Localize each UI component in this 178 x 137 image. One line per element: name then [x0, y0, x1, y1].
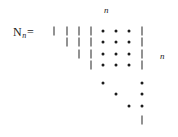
dot-icon [115, 93, 118, 96]
matrix-cell-dot-r4-c5 [102, 64, 105, 67]
dot-icon [128, 105, 131, 108]
matrix-cell-dot-r5-c5 [102, 82, 105, 85]
matrix-cell-bar-r2-c4 [91, 38, 92, 47]
matrix-label: Nn= [13, 26, 34, 40]
dot-icon [102, 53, 105, 56]
vertical-bar-icon [142, 27, 143, 36]
matrix-cell-bar-r1-c1 [54, 27, 55, 36]
vertical-bar-icon [91, 38, 92, 47]
vertical-bar-icon [142, 50, 143, 59]
vertical-bar-icon [91, 61, 92, 70]
matrix-cell-dot-r1-c7 [128, 30, 131, 33]
dimension-label-top: n [104, 6, 109, 15]
matrix-cell-bar-r8-c8 [142, 116, 143, 125]
matrix-cell-bar-r3-c8 [142, 50, 143, 59]
matrix-cell-dot-r3-c7 [128, 53, 131, 56]
matrix-cell-dot-r4-c6 [115, 64, 118, 67]
matrix-cell-bar-r2-c8 [142, 38, 143, 47]
dot-icon [128, 30, 131, 33]
dot-icon [141, 105, 144, 108]
dot-icon [115, 30, 118, 33]
matrix-cell-dot-r3-c6 [115, 53, 118, 56]
dot-icon [141, 93, 144, 96]
matrix-figure: Nn= n n [0, 0, 178, 137]
dot-icon [128, 53, 131, 56]
matrix-cell-bar-r4-c8 [142, 61, 143, 70]
vertical-bar-icon [79, 50, 80, 59]
dot-icon [102, 30, 105, 33]
vertical-bar-icon [54, 27, 55, 36]
vertical-bar-icon [91, 27, 92, 36]
matrix-cell-dot-r1-c6 [115, 30, 118, 33]
vertical-bar-icon [67, 27, 68, 36]
matrix-cell-dot-r5-c8 [141, 82, 144, 85]
matrix-variable: N [13, 25, 22, 39]
dot-icon [115, 41, 118, 44]
vertical-bar-icon [79, 38, 80, 47]
matrix-cell-dot-r2-c7 [128, 41, 131, 44]
vertical-bar-icon [142, 116, 143, 125]
vertical-bar-icon [142, 61, 143, 70]
matrix-cell-dot-r4-c7 [128, 64, 131, 67]
vertical-bar-icon [67, 38, 68, 47]
dot-icon [128, 41, 131, 44]
matrix-cell-bar-r1-c2 [67, 27, 68, 36]
matrix-cell-dot-r1-c5 [102, 30, 105, 33]
matrix-cell-bar-r2-c2 [67, 38, 68, 47]
vertical-bar-icon [79, 27, 80, 36]
matrix-cell-dot-r7-c8 [141, 105, 144, 108]
vertical-bar-icon [91, 50, 92, 59]
matrix-cell-dot-r6-c6 [115, 93, 118, 96]
matrix-cell-bar-r2-c3 [79, 38, 80, 47]
dot-icon [102, 64, 105, 67]
dot-icon [115, 64, 118, 67]
matrix-cell-dot-r2-c5 [102, 41, 105, 44]
dot-icon [102, 41, 105, 44]
dot-icon [102, 82, 105, 85]
matrix-cell-dot-r2-c6 [115, 41, 118, 44]
equals-sign: = [26, 25, 33, 39]
matrix-cell-bar-r1-c3 [79, 27, 80, 36]
dot-icon [128, 64, 131, 67]
vertical-bar-icon [142, 38, 143, 47]
matrix-cell-bar-r1-c8 [142, 27, 143, 36]
matrix-cell-dot-r3-c5 [102, 53, 105, 56]
dimension-label-right: n [160, 52, 165, 61]
matrix-cell-dot-r6-c8 [141, 93, 144, 96]
matrix-cell-bar-r3-c4 [91, 50, 92, 59]
matrix-cell-bar-r3-c3 [79, 50, 80, 59]
matrix-cell-bar-r4-c4 [91, 61, 92, 70]
matrix-cell-bar-r1-c4 [91, 27, 92, 36]
matrix-cell-dot-r7-c7 [128, 105, 131, 108]
dot-icon [115, 53, 118, 56]
dot-icon [141, 82, 144, 85]
